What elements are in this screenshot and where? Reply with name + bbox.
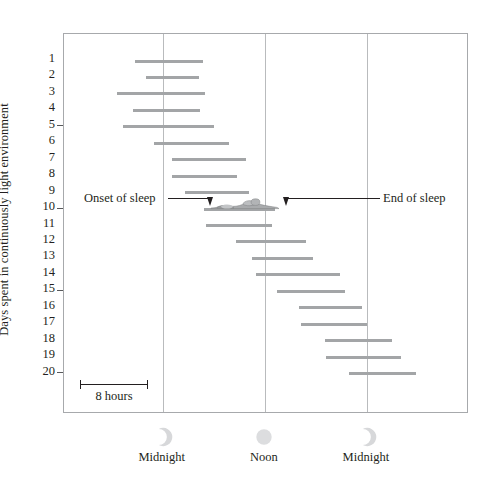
- y-tick-label-9: 9: [29, 184, 55, 196]
- actogram-figure: Days spent in continuously light environ…: [0, 0, 490, 493]
- x-tick-0: Midnight: [122, 426, 202, 465]
- sleep-bar-day-1: [135, 60, 203, 63]
- x-tick-label-0: Midnight: [122, 450, 202, 465]
- sleep-bar-day-20: [349, 372, 416, 375]
- sleep-bar-day-4: [133, 109, 200, 112]
- sleep-bar-day-8: [172, 175, 237, 178]
- scale-bar-label: 8 hours: [80, 389, 148, 404]
- sleep-bar-day-14: [256, 273, 339, 276]
- sleep-bar-day-18: [325, 339, 392, 342]
- sleep-bar-day-17: [301, 323, 367, 326]
- y-tick-label-11: 11: [29, 217, 55, 229]
- gridline-noon-1: [265, 34, 266, 412]
- y-tick-label-8: 8: [29, 167, 55, 179]
- x-tick-2: Midnight: [326, 426, 406, 465]
- x-tick-label-2: Midnight: [326, 450, 406, 465]
- y-tick-label-1: 1: [29, 52, 55, 64]
- crescent-moon-icon: [355, 426, 377, 448]
- x-tick-label-1: Noon: [224, 450, 304, 465]
- gridline-midnight-0: [163, 34, 164, 412]
- sun-icon: [253, 426, 275, 448]
- sleep-bar-day-12: [236, 240, 307, 243]
- y-tick-label-15: 15: [29, 282, 55, 294]
- sleep-bar-day-11: [206, 224, 272, 227]
- y-tick-label-20: 20: [29, 365, 55, 377]
- y-tick-label-4: 4: [29, 101, 55, 113]
- scale-bar: [80, 384, 148, 385]
- y-tick-label-17: 17: [29, 315, 55, 327]
- plot-area: [63, 33, 468, 413]
- y-tick-label-16: 16: [29, 299, 55, 311]
- y-axis-title: Days spent in continuously light environ…: [0, 10, 12, 430]
- y-tick-label-18: 18: [29, 332, 55, 344]
- sleep-bar-day-5: [123, 125, 214, 128]
- sleep-bar-day-15: [277, 290, 345, 293]
- end-of-sleep-label: End of sleep: [383, 191, 445, 206]
- sleeping-person-icon: [205, 194, 287, 210]
- x-tick-1: Noon: [224, 426, 304, 465]
- onset-of-sleep-label: Onset of sleep: [84, 191, 156, 206]
- crescent-moon-icon: [151, 426, 173, 448]
- y-tick-label-5: 5: [29, 118, 55, 130]
- sleep-bar-day-6: [154, 142, 229, 145]
- y-tick-label-2: 2: [29, 68, 55, 80]
- y-tick-label-6: 6: [29, 134, 55, 146]
- y-tick-label-13: 13: [29, 249, 55, 261]
- y-tick-label-7: 7: [29, 151, 55, 163]
- y-tick-label-14: 14: [29, 266, 55, 278]
- sleep-bar-day-2: [146, 76, 200, 79]
- y-tick-label-3: 3: [29, 85, 55, 97]
- sleep-bar-day-19: [326, 356, 401, 359]
- y-tick-label-10: 10: [29, 200, 55, 212]
- y-tick-label-19: 19: [29, 348, 55, 360]
- y-tick-label-12: 12: [29, 233, 55, 245]
- end-of-sleep-leader-line: [287, 198, 380, 199]
- sleep-bar-day-13: [252, 257, 313, 260]
- sleep-bar-day-3: [117, 92, 205, 95]
- sleep-bar-day-7: [172, 158, 246, 161]
- sleep-bar-day-16: [299, 306, 362, 309]
